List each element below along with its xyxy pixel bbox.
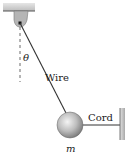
- mass-ball: [57, 112, 83, 138]
- wall: [120, 108, 125, 140]
- ceiling-support: [3, 3, 35, 11]
- cord-label: Cord: [88, 112, 113, 123]
- mass-label: m: [66, 143, 75, 154]
- wire-line: [20, 23, 66, 113]
- angle-label: θ: [23, 52, 29, 63]
- pendulum-diagram: θ Wire Cord m: [0, 0, 134, 155]
- wire-label: Wire: [45, 72, 69, 83]
